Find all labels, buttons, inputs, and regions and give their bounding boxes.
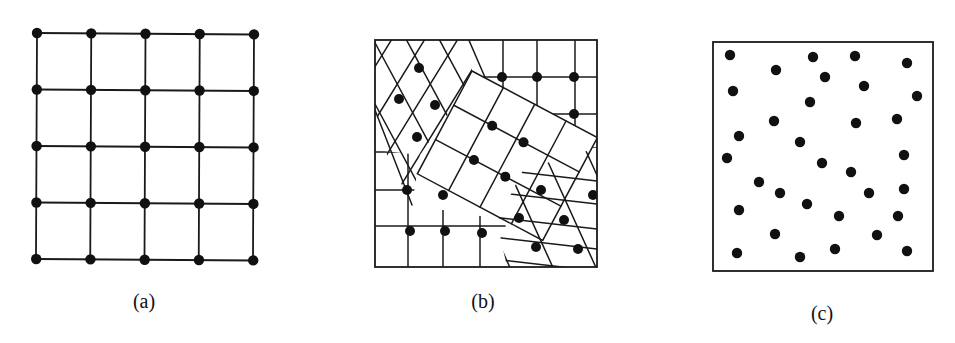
panel-a-regular-lattice: [31, 28, 259, 266]
panel-b-polycrystalline-grains: [157, 0, 779, 272]
panel-c-amorphous-points: [713, 42, 933, 271]
caption-a: (a): [133, 290, 155, 313]
caption-b: (b): [471, 290, 494, 313]
caption-c: (c): [811, 302, 833, 325]
